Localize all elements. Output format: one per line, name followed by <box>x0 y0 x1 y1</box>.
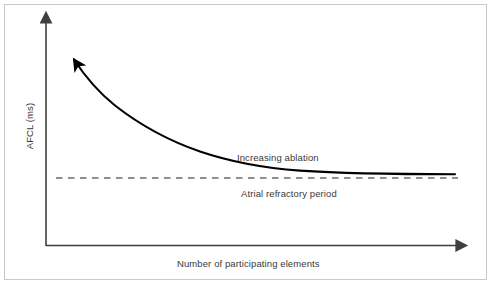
plot-area <box>0 0 493 285</box>
annotation-atrial-refractory-period: Atrial refractory period <box>241 189 337 199</box>
x-axis-label: Number of participating elements <box>177 259 320 269</box>
annotation-increasing-ablation: Increasing ablation <box>237 153 319 163</box>
y-axis-label: AFCL (ms) <box>25 103 35 149</box>
chart-figure: Number of participating elements AFCL (m… <box>0 0 493 285</box>
